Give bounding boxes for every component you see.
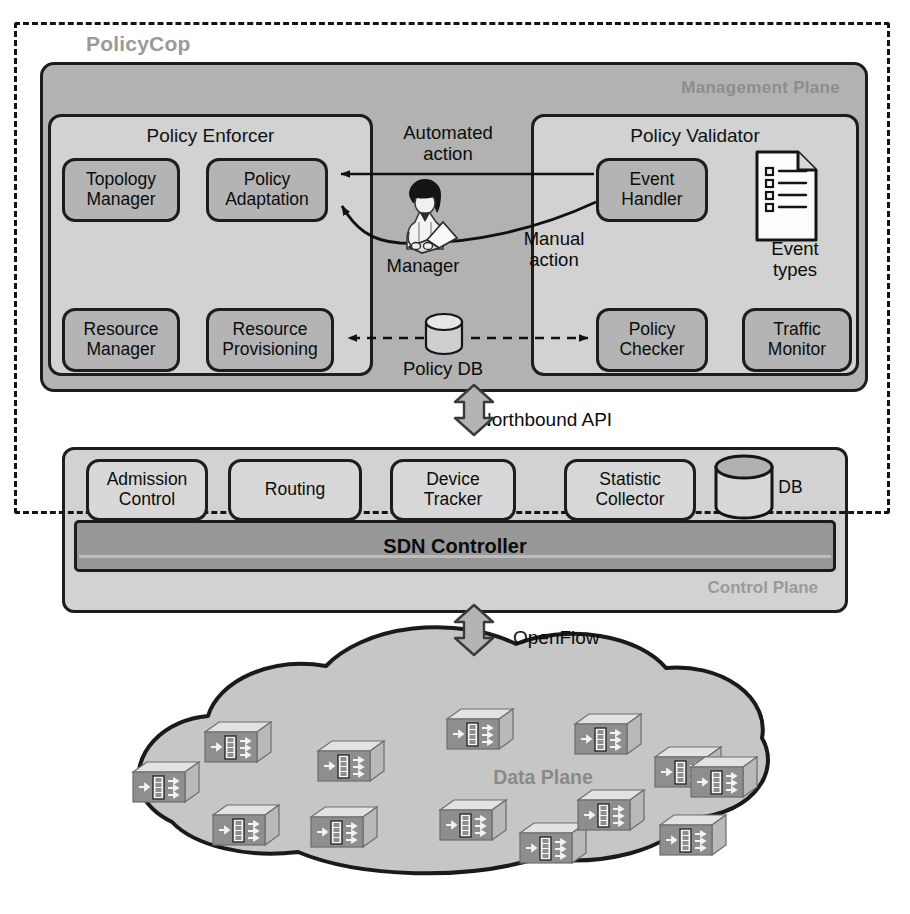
switch-icon <box>660 815 726 855</box>
module-topology-manager[interactable]: Topology Manager <box>62 158 180 222</box>
switch-icon <box>205 722 271 762</box>
openflow-label: OpenFlow <box>513 627 600 649</box>
management-plane-label: Management Plane <box>681 78 840 98</box>
sdn-bar-sheen <box>79 555 831 558</box>
policy-db-label: Policy DB <box>388 358 498 379</box>
switch-icon <box>447 709 513 749</box>
rule-db-label: Rule DB <box>714 477 826 498</box>
switch-icon <box>655 747 721 787</box>
module-resource-manager[interactable]: Resource Manager <box>62 308 180 372</box>
chip-line-1: Device <box>426 469 480 489</box>
chip-line-1: Routing <box>265 480 325 500</box>
switch-icon <box>440 800 506 840</box>
event-types-label: Event types <box>746 238 844 281</box>
manual-action-line-1: Manual <box>524 228 585 249</box>
policycop-title: PolicyCop <box>86 32 190 56</box>
switch-icon <box>691 757 757 797</box>
northbound-api-label: Northbound API <box>478 409 612 431</box>
chip-line-1: Event <box>630 169 675 189</box>
switch-icon <box>311 807 377 847</box>
chip-line-2: Collector <box>595 489 664 509</box>
chip-line-1: Resource <box>84 319 159 339</box>
chip-line-2: Provisioning <box>222 339 317 359</box>
chip-line-2: Manager <box>86 189 155 209</box>
chip-line-1: Policy <box>244 169 291 189</box>
module-policy-adaptation[interactable]: Policy Adaptation <box>206 158 328 222</box>
sdn-controller-bar: SDN Controller <box>74 520 836 572</box>
control-app-statistic-collector[interactable]: Statistic Collector <box>564 459 696 521</box>
chip-line-2: Adaptation <box>225 189 309 209</box>
chip-line-2: Monitor <box>768 339 826 359</box>
control-plane-label: Control Plane <box>707 578 818 598</box>
manager-label: Manager <box>368 255 478 276</box>
switch-icon <box>575 714 641 754</box>
chip-line-1: Admission <box>107 469 188 489</box>
manual-action-line-2: action <box>529 249 578 270</box>
event-types-line-1: Event <box>771 238 818 259</box>
policy-enforcer-title: Policy Enforcer <box>51 125 370 147</box>
automated-action-line-2: action <box>423 143 472 164</box>
switch-icon <box>578 790 644 830</box>
module-event-handler[interactable]: Event Handler <box>596 158 708 222</box>
chip-line-2: Checker <box>619 339 684 359</box>
chip-line-1: Resource <box>233 319 308 339</box>
chip-line-2: Handler <box>621 189 682 209</box>
chip-line-1: Policy <box>629 319 676 339</box>
chip-line-1: Statistic <box>599 469 660 489</box>
control-app-device-tracker[interactable]: Device Tracker <box>390 459 516 521</box>
switch-icon <box>133 762 199 802</box>
policy-validator-title: Policy Validator <box>534 125 856 147</box>
switch-icon <box>213 805 279 845</box>
module-resource-provisioning[interactable]: Resource Provisioning <box>206 308 334 372</box>
chip-line-2: Control <box>119 489 175 509</box>
chip-line-1: Topology <box>86 169 156 189</box>
switch-icon <box>520 823 586 863</box>
module-policy-checker[interactable]: Policy Checker <box>596 308 708 372</box>
automated-action-label: Automated action <box>381 122 515 165</box>
control-app-admission-control[interactable]: Admission Control <box>86 459 208 521</box>
data-plane-label: Data Plane <box>473 766 613 789</box>
automated-action-line-1: Automated <box>403 122 492 143</box>
chip-line-2: Tracker <box>424 489 483 509</box>
diagram-canvas: Control Plane Admission Control Routing … <box>0 0 910 914</box>
control-app-routing[interactable]: Routing <box>228 459 362 521</box>
manual-action-label: Manual action <box>500 228 608 271</box>
data-plane-cloud <box>138 627 768 873</box>
chip-line-1: Traffic <box>773 319 821 339</box>
event-types-line-2: types <box>773 259 817 280</box>
chip-line-2: Manager <box>86 339 155 359</box>
switch-icon <box>318 741 384 781</box>
module-traffic-monitor[interactable]: Traffic Monitor <box>742 308 852 372</box>
